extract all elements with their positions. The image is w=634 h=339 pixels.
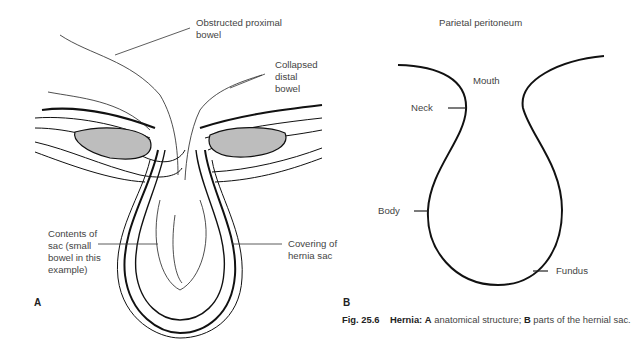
panel-letter-b: B [343, 297, 350, 308]
label-body: Body [378, 205, 400, 217]
label-covering-of-sac: Covering of hernia sac [288, 238, 337, 262]
caption-b-letter: B [524, 314, 531, 325]
hernial-sac-outline [398, 56, 604, 285]
abdominal-wall-left [35, 109, 185, 182]
panel-letter-a: A [34, 297, 41, 308]
label-parietal-peritoneum: Parietal peritoneum [439, 17, 522, 29]
caption-b-text: parts of the hernial sac. [531, 314, 631, 325]
label-collapsed-bowel: Collapsed distal bowel [275, 59, 318, 95]
figure-caption: Fig. 25.6 Hernia: A anatomical structure… [342, 314, 632, 326]
hernia-illustration [0, 0, 634, 339]
label-obstructed-bowel: Obstructed proximal bowel [196, 17, 282, 41]
label-mouth: Mouth [473, 75, 500, 87]
abdominal-wall-right [200, 105, 322, 182]
label-contents-of-sac: Contents of sac (small bowel in this exa… [48, 228, 101, 276]
label-fundus: Fundus [556, 265, 588, 277]
label-neck: Neck [411, 102, 433, 114]
caption-a-letter: A [425, 314, 432, 325]
caption-title: Hernia: [390, 314, 422, 325]
caption-a-text: anatomical structure; [432, 314, 524, 325]
figure-number: Fig. 25.6 [342, 314, 380, 325]
